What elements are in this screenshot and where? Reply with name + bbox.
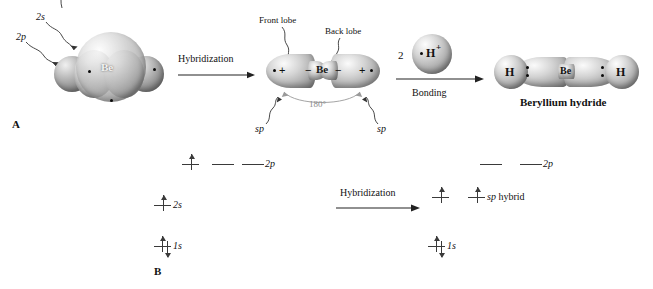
electron-dot-2s-bottom <box>110 99 113 102</box>
panel-b-label: B <box>154 266 161 277</box>
bond-electron-dot-right-upper <box>601 66 604 69</box>
label-2p-ground: 2p <box>16 32 26 42</box>
electron-dot-2p-right <box>153 68 156 71</box>
figure-sp-hybridization-beryllium: 2s 2p Be A Hybridization Front lobe Back… <box>0 0 653 289</box>
electron-arrow-2s-up <box>163 195 164 211</box>
product-name-label: Beryllium hydride <box>520 97 606 108</box>
electron-dot-h-cation <box>420 52 423 55</box>
orbital-label-sp-hybrid-rest: hybrid <box>496 191 525 202</box>
orbital-label-1s-after: 1s <box>447 241 456 251</box>
electron-arrow-2p-1-up <box>191 154 192 170</box>
orbital-label-sp-hybrid: sp hybrid <box>487 192 525 202</box>
hydrogen-cation-charge: + <box>436 43 441 52</box>
sign-minus-inner-right: − <box>335 65 341 76</box>
orbital-label-sp-hybrid-prefix: sp <box>487 191 496 202</box>
sign-minus-inner-left: − <box>305 65 311 76</box>
bonding-step: 2 H + Bonding <box>396 26 492 96</box>
electron-arrow-sp-2-up <box>477 187 478 203</box>
bond-electron-dot-left-lower <box>526 74 529 77</box>
panel-b-energy-diagram-after: 2p sp hybrid 1s <box>424 150 624 280</box>
orbital-level-2p-3 <box>242 164 264 165</box>
orbital-level-2p-2 <box>212 164 234 165</box>
product-h-label-right: H <box>616 66 625 78</box>
panel-b-energy-diagram-before: 2p 2s 1s B <box>150 150 325 280</box>
atom-label-be-hybrid: Be <box>316 64 328 75</box>
panel-a-label: A <box>12 119 20 130</box>
electron-arrow-sp-1-up <box>441 187 442 203</box>
orbital-level-2p-after-1 <box>480 164 502 165</box>
electron-arrow-1s-down <box>167 241 168 257</box>
orbital-label-2p-before: 2p <box>265 159 275 169</box>
arrow-hybridization-a: Hybridization <box>178 54 256 82</box>
arrow-hybridization-b-label: Hybridization <box>340 188 396 198</box>
hydrogen-cation-symbol: H <box>426 47 435 59</box>
electron-dot-2p-left <box>88 70 91 73</box>
reagent-count-label: 2 <box>398 50 404 61</box>
product-beryllium-hydride: H H Be Beryllium hydride <box>484 40 649 110</box>
orbital-label-2s-before: 2s <box>173 200 182 210</box>
arrow-hybridization-b: Hybridization <box>336 188 422 216</box>
bond-electron-dot-left-upper <box>526 66 529 69</box>
bond-angle-label: 180° <box>309 100 326 109</box>
label-sp-left: sp <box>255 124 264 134</box>
label-2s-ground: 2s <box>36 12 45 22</box>
atom-label-be-ground: Be <box>101 62 113 73</box>
arrow-hybridization-a-label: Hybridization <box>178 54 234 64</box>
electron-dot-sp-right <box>370 69 373 72</box>
electron-dot-sp-left <box>273 69 276 72</box>
product-h-label-left: H <box>505 66 514 78</box>
product-be-label: Be <box>560 66 571 76</box>
bond-electron-dot-right-lower <box>601 74 604 77</box>
panel-a-hybridized-atom: Front lobe Back lobe + − <box>248 0 398 140</box>
electron-arrow-1s-after-down <box>441 241 442 257</box>
sign-plus-left: + <box>279 65 285 76</box>
orbital-label-1s-before: 1s <box>173 241 182 251</box>
orbital-level-2p-after-2 <box>520 164 542 165</box>
orbital-label-2p-after: 2p <box>543 159 553 169</box>
arrow-bonding-label: Bonding <box>412 88 446 98</box>
sign-plus-right: + <box>359 65 365 76</box>
electron-arrow-1s-up <box>162 236 163 252</box>
label-sp-right: sp <box>377 124 386 134</box>
electron-arrow-1s-after-up <box>436 236 437 252</box>
panel-a-ground-state-atom: 2s 2p Be A <box>0 0 180 140</box>
